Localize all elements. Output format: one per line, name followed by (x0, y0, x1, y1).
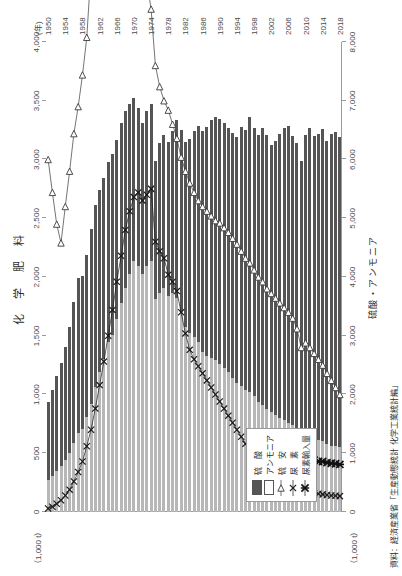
legend-item: 硫 酸 (251, 435, 263, 496)
top-axis-tick-label: 2,000 (32, 266, 41, 287)
bottom-axis-title: 硫酸・アンモニア (366, 235, 379, 319)
line-marker-triangle-open (54, 221, 60, 227)
year-axis-label: 1978 (164, 17, 173, 35)
line-marker-triangle-open (324, 370, 330, 376)
top-axis-tick-label: 1,500 (32, 325, 41, 346)
legend-key-triangle-open-icon (277, 480, 286, 496)
year-axis-label: 2018 (335, 17, 344, 35)
line-marker-triangle-open (302, 340, 308, 346)
year-axis-label: 1950 (44, 17, 53, 35)
line-marker-cross (234, 427, 240, 433)
line-marker-triangle-open (165, 107, 171, 113)
line-marker-triangle-open (178, 154, 184, 160)
line-marker-cross (92, 406, 98, 412)
year-axis-label: 1966 (112, 17, 121, 35)
bottom-axis-tick-label: 7,000 (348, 90, 357, 111)
year-axis-label: 2010 (301, 17, 310, 35)
line-marker-cross (238, 434, 244, 440)
bottom-axis-tick-label: 2,000 (348, 384, 357, 405)
year-axis-label: 1958 (78, 17, 87, 35)
line-marker-triangle-open (148, 6, 154, 12)
year-axis-label: 1962 (95, 17, 104, 35)
line-marker-triangle-open (187, 180, 193, 186)
line-marker-cross (157, 248, 163, 254)
line-marker-triangle-open (328, 377, 334, 383)
line-marker-triangle-open (49, 189, 55, 195)
year-axis-label: 2006 (284, 17, 293, 35)
legend-item: アンモニア (263, 435, 275, 496)
legend-key-bar-hollow-icon (265, 480, 274, 496)
top-axis-tick-label: 1,000 (32, 384, 41, 405)
legend-key-bar-filled-icon (253, 480, 262, 496)
line-marker-triangle-open (71, 130, 77, 136)
line-marker-triangle-open (255, 274, 261, 280)
line-marker-triangle-open (66, 168, 72, 174)
line-marker-triangle-open (242, 255, 248, 261)
line-marker-cross (178, 309, 184, 315)
line-marker-cross (182, 330, 188, 336)
line-marker-cross (174, 288, 180, 294)
bottom-axis-tick (342, 394, 346, 395)
year-axis-label: 2014 (318, 17, 327, 35)
line-marker-cross (71, 478, 77, 484)
bottom-axis-tick (342, 217, 346, 218)
line-marker-cross (144, 192, 150, 198)
top-axis-tick-label: 3,000 (32, 149, 41, 170)
bottom-axis-tick-label: 6,000 (348, 149, 357, 170)
line-marker-triangle-open (58, 240, 64, 246)
top-axis-tick-label: 4,000 (32, 31, 41, 52)
line-marker-triangle-open (238, 248, 244, 254)
bottom-axis-tick-label: 0 (348, 510, 357, 515)
line-marker-cross (75, 469, 81, 475)
legend-item: 硫 安 (275, 435, 287, 496)
year-axis-label: 1954 (61, 17, 70, 35)
line-marker-triangle-open (75, 103, 81, 109)
top-axis-tick-label: 0 (32, 510, 41, 515)
line-marker-triangle-open (182, 168, 188, 174)
year-axis-label: 2002 (267, 17, 276, 35)
line-marker-cross (79, 458, 85, 464)
line-marker-triangle-open (161, 98, 167, 104)
year-axis-label: 1986 (198, 17, 207, 35)
line-marker-triangle-open (152, 62, 158, 68)
line-marker-triangle-open (294, 326, 300, 332)
line-marker-cross (199, 370, 205, 376)
chart-legend: 硫 酸アンモニア硫 安尿 素尿素輸入量 (246, 428, 317, 502)
bottom-axis-tick (342, 276, 346, 277)
line-marker-cross (165, 272, 171, 278)
rotated-figure-wrapper: 化 学 肥 料 （1,000 t） （1,000 t） 硫酸・アンモニア (年)… (0, 0, 402, 576)
line-marker-triangle-open (156, 83, 162, 89)
line-marker-triangle-open (45, 156, 51, 162)
line-marker-triangle-open (169, 121, 175, 127)
line-marker-triangle-open (191, 189, 197, 195)
year-axis-label: 1998 (250, 17, 259, 35)
line-marker-cross (139, 198, 145, 204)
line-marker-cross (212, 391, 218, 397)
legend-key-cross-bold-icon (301, 480, 310, 496)
bottom-axis-tick (342, 41, 346, 42)
line-path (48, 0, 340, 395)
top-axis-tick-label: 500 (32, 446, 41, 460)
line-marker-cross (195, 363, 201, 369)
line-marker-triangle-open (79, 72, 85, 78)
line-marker-triangle-open (251, 267, 257, 273)
bottom-axis-tick (342, 100, 346, 101)
bottom-axis-tick (342, 335, 346, 336)
line-marker-cross (230, 420, 236, 426)
line-marker-cross (97, 382, 103, 388)
legend-label: 尿素輸入量 (300, 435, 311, 475)
year-axis-label: 1994 (232, 17, 241, 35)
line-marker-triangle-open (195, 197, 201, 203)
line-marker-cross (217, 398, 223, 404)
legend-item: 尿 素 (287, 435, 299, 496)
bottom-axis-tick (342, 511, 346, 512)
bottom-axis-tick (342, 452, 346, 453)
line-marker-cross (161, 255, 167, 261)
line-marker-cross (88, 427, 94, 433)
line-marker-triangle-open (332, 384, 338, 390)
year-axis-label: 1974 (147, 17, 156, 35)
line-marker-triangle-open (84, 34, 90, 40)
chart-figure: 化 学 肥 料 （1,000 t） （1,000 t） 硫酸・アンモニア (年)… (0, 0, 402, 576)
year-axis-label: 1982 (181, 17, 190, 35)
top-axis-tick-label: 3,500 (32, 90, 41, 111)
